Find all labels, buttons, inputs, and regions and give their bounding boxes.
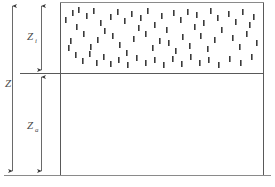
stipple-mark: [119, 42, 121, 48]
stipple-mark: [181, 61, 183, 67]
stipple-mark: [168, 40, 170, 46]
stipple-mark: [214, 37, 216, 43]
stipple-mark: [89, 51, 91, 57]
stipple-mark: [86, 13, 88, 19]
stipple-mark: [187, 9, 189, 15]
stipple-mark: [239, 44, 241, 50]
stipple-mark: [110, 61, 112, 67]
stipple-mark: [208, 57, 210, 63]
stipple-mark: [112, 33, 114, 39]
stipple-mark: [217, 15, 219, 21]
stipple-mark: [172, 56, 174, 62]
stipple-mark: [126, 50, 128, 56]
stipple-mark: [218, 62, 220, 68]
stipple-mark: [78, 7, 80, 13]
stipple-mark: [232, 35, 234, 41]
stipple-mark: [182, 34, 184, 40]
stipple-mark: [251, 54, 253, 60]
stipple-mark: [138, 25, 140, 31]
stipple-mark: [145, 31, 147, 37]
stipple-mark: [65, 17, 67, 23]
stipple-mark: [210, 8, 212, 14]
stipple-mark: [194, 24, 196, 30]
stipple-mark: [104, 28, 106, 34]
stipple-mark: [200, 33, 202, 39]
stipple-mark: [253, 14, 255, 20]
stipple-mark: [203, 20, 205, 26]
stipple-mark: [175, 48, 177, 54]
stipple-mark: [154, 22, 156, 28]
domain-frame: [4, 2, 271, 176]
stipple-mark: [75, 52, 77, 58]
stipple-mark: [100, 20, 102, 26]
stipple-mark: [207, 46, 209, 52]
stipple-mark: [72, 10, 74, 16]
stipple-mark: [96, 60, 98, 66]
stipple-mark: [136, 55, 138, 61]
stipple-mark: [159, 38, 161, 44]
label-interface-symbol: Z: [5, 77, 12, 89]
stipple-mark: [90, 44, 92, 50]
stipple-mark: [166, 27, 168, 33]
stipple-mark: [163, 62, 165, 68]
stipple-mark: [196, 12, 198, 18]
stipple-mark: [161, 13, 163, 19]
stipple-mark: [173, 10, 175, 16]
stipple-mark: [199, 60, 201, 66]
stipple-mark: [140, 15, 142, 21]
stipple-mark: [117, 9, 119, 15]
label-upper-layer-symbol: Z: [27, 30, 34, 42]
stipple-mark: [145, 60, 147, 66]
stipple-mark: [235, 19, 237, 25]
stipple-mark: [256, 40, 258, 46]
stipple-mark: [68, 45, 70, 51]
stipple-mark: [76, 24, 78, 30]
stipple-mark: [133, 36, 135, 42]
stipple-mark: [246, 31, 248, 37]
stipple-mark: [70, 38, 72, 44]
label-upper-layer-subscript: i: [35, 37, 37, 45]
stipple-mark: [249, 22, 251, 28]
stipple-mark: [127, 62, 129, 68]
stipple-mark: [93, 8, 95, 14]
label-lower-layer-subscript: a: [35, 126, 39, 134]
stipple-mark: [97, 37, 99, 43]
stipple-mark: [83, 31, 85, 37]
two-layer-depth-diagram: Z i Z Z a: [0, 0, 275, 187]
stipple-mark: [221, 27, 223, 33]
stipple-mark: [152, 45, 154, 51]
stipple-mark: [118, 57, 120, 63]
stipple-mark: [240, 60, 242, 66]
stipple-mark: [189, 43, 191, 49]
diagram-canvas: Z i Z Z a: [0, 0, 275, 187]
stipple-mark: [154, 57, 156, 63]
stipple-mark: [190, 54, 192, 60]
stipple-mark: [103, 54, 105, 60]
stipple-mark: [110, 14, 112, 20]
stipple-mark: [147, 8, 149, 14]
stipple-mark: [228, 11, 230, 17]
stipple-mark: [242, 9, 244, 15]
stipple-mark: [82, 58, 84, 64]
upper-layer-stipple: [65, 7, 258, 68]
stipple-mark: [124, 18, 126, 24]
stipple-mark: [131, 11, 133, 17]
stipple-mark: [180, 17, 182, 23]
label-lower-layer-symbol: Z: [27, 119, 34, 131]
stipple-mark: [229, 56, 231, 62]
